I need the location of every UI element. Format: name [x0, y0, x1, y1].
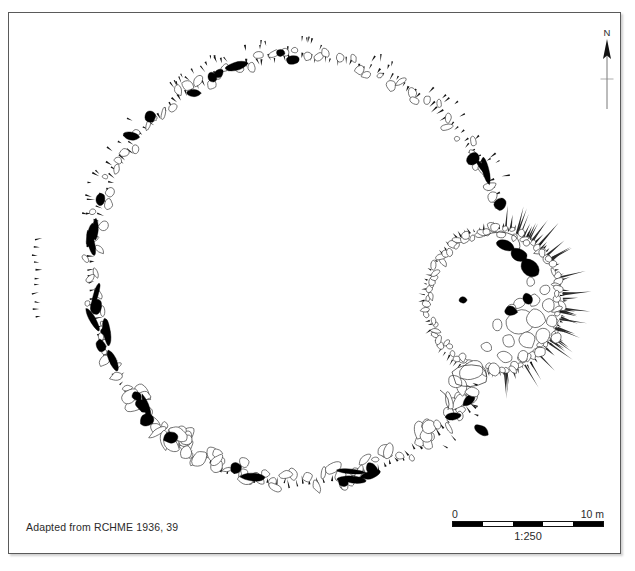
- hachure-tick: [35, 301, 41, 303]
- hachure-tick: [391, 61, 393, 66]
- detached-scarp-hachures: [32, 238, 43, 318]
- hachure-tick: [431, 106, 438, 112]
- hachure-tick: [32, 254, 38, 256]
- hachure-tick: [95, 205, 102, 208]
- standing-stone: [225, 61, 248, 71]
- hachure-tick: [384, 462, 387, 467]
- stone-outline: [85, 301, 90, 307]
- cairn-stone-outline: [540, 285, 550, 294]
- standing-stone: [286, 56, 299, 65]
- hachure-tick: [32, 292, 39, 294]
- north-arrow: N: [596, 28, 618, 114]
- hachure-tick: [429, 87, 435, 93]
- stone-outline: [119, 149, 129, 157]
- hachure-tick: [538, 223, 558, 246]
- hachure-tick: [259, 45, 260, 50]
- stone-outline: [450, 351, 455, 357]
- hachure-tick: [447, 355, 451, 362]
- scale-bar-segment: [573, 522, 603, 526]
- hachure-tick: [563, 290, 570, 292]
- stone-outline: [269, 483, 282, 492]
- cairn-stone-outline: [503, 335, 515, 347]
- stone-outline: [102, 174, 107, 179]
- hachure-tick: [108, 181, 114, 183]
- stone-outline: [491, 223, 500, 231]
- cairn-stone-outline: [527, 277, 535, 286]
- stone-outline: [523, 240, 530, 246]
- scale-bar-segment: [453, 522, 483, 526]
- scale-ratio-label: 1:250: [452, 530, 604, 542]
- stone-outline: [453, 356, 460, 362]
- hachure-tick: [97, 213, 104, 216]
- stone-outline: [302, 472, 312, 482]
- standing-stone: [459, 297, 467, 303]
- hachure-tick: [453, 361, 457, 366]
- hachure-tick: [389, 459, 391, 464]
- hachure-tick: [369, 64, 372, 69]
- hachure-tick: [444, 246, 447, 250]
- scale-bar-segment: [543, 522, 573, 526]
- hachure-tick: [387, 64, 389, 69]
- hachure-tick: [204, 61, 207, 65]
- stone-outline: [253, 52, 263, 59]
- cairn-stone-outline: [493, 319, 502, 331]
- cairn-stone-outline: [488, 363, 500, 376]
- scale-bar: 0 10 m 1:250: [452, 508, 604, 542]
- stone-outline: [104, 199, 112, 210]
- stone-outline: [336, 53, 344, 62]
- standing-stone: [475, 425, 489, 436]
- hachure-tick: [371, 56, 375, 62]
- hachure-tick: [128, 141, 134, 145]
- hachure-tick: [380, 54, 381, 62]
- hachure-tick: [171, 97, 177, 102]
- hachure-tick: [301, 53, 303, 59]
- stone-outline: [194, 75, 203, 86]
- hachure-tick: [396, 76, 399, 80]
- hachure-tick: [302, 36, 303, 42]
- cairn-stone-outline: [546, 315, 556, 327]
- stone-outline: [291, 47, 297, 52]
- hachure-tick: [549, 247, 571, 260]
- stone-outline: [86, 274, 94, 282]
- hachure-tick: [213, 56, 217, 63]
- cairn-stone-outline: [542, 299, 554, 312]
- hachure-tick: [464, 137, 469, 141]
- hachure-tick: [545, 347, 554, 355]
- stone-outline: [445, 113, 451, 123]
- standing-stone: [496, 240, 514, 251]
- hachure-tick: [436, 109, 443, 114]
- stone-outline: [424, 96, 431, 104]
- hachure-tick: [36, 316, 41, 318]
- standing-stone: [140, 414, 153, 426]
- stone-outline: [503, 226, 508, 231]
- hachure-tick: [266, 478, 268, 483]
- hachure-tick: [474, 414, 479, 416]
- hachure-tick: [442, 445, 447, 448]
- hachure-tick: [425, 320, 430, 322]
- hachure-tick: [319, 45, 322, 50]
- site-plan-drawing: [0, 0, 635, 571]
- stone-outline: [549, 260, 557, 267]
- stone-outline: [409, 455, 414, 461]
- north-label: N: [596, 28, 618, 38]
- hachure-tick: [331, 475, 333, 481]
- hachure-tick: [418, 293, 425, 295]
- scale-bar-track: [452, 521, 604, 527]
- hachure-tick: [563, 300, 567, 302]
- stone-outline: [396, 452, 404, 459]
- hachure-tick: [264, 41, 266, 46]
- stone-outline: [420, 307, 429, 312]
- stone-outline: [313, 480, 321, 493]
- hachure-tick: [90, 261, 95, 263]
- hachure-tick: [389, 73, 394, 81]
- cairn-stone-outline: [481, 342, 491, 351]
- source-caption: Adapted from RCHME 1936, 39: [26, 521, 178, 533]
- stone-outline: [109, 372, 122, 380]
- hachure-tick: [562, 291, 591, 295]
- hachure-tick: [428, 323, 432, 325]
- hachure-tick: [473, 229, 475, 232]
- stone-outline: [192, 452, 207, 467]
- hachure-tick: [119, 381, 123, 385]
- hachure-tick: [555, 269, 559, 271]
- hachure-tick: [308, 37, 310, 43]
